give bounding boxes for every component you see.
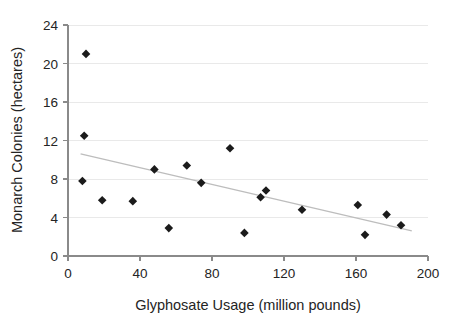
data-point — [240, 229, 249, 238]
x-tick-label-40: 40 — [132, 266, 147, 281]
trend-line — [81, 154, 412, 231]
data-point — [80, 131, 89, 140]
y-axis-ticks-group — [63, 25, 68, 256]
data-points-group — [78, 50, 405, 240]
x-axis-ticks-group — [68, 256, 428, 261]
data-point — [354, 201, 363, 210]
y-tick-label-0: 0 — [50, 249, 58, 264]
y-tick-label-4: 4 — [50, 211, 58, 226]
x-tick-label-0: 0 — [64, 266, 72, 281]
data-point — [165, 224, 174, 233]
data-point — [256, 193, 265, 202]
data-point — [82, 50, 91, 59]
y-tick-label-12: 12 — [43, 134, 58, 149]
y-tick-label-20: 20 — [43, 57, 58, 72]
y-axis-tick-labels-group: 04812162024 — [43, 18, 59, 264]
y-tick-label-8: 8 — [50, 172, 58, 187]
data-point — [129, 197, 138, 206]
data-point — [183, 161, 192, 170]
x-tick-label-160: 160 — [345, 266, 368, 281]
gridlines-group — [68, 25, 428, 218]
x-axis-title: Glyphosate Usage (million pounds) — [135, 297, 361, 313]
y-tick-label-16: 16 — [43, 95, 58, 110]
data-point — [78, 177, 87, 186]
y-tick-label-24: 24 — [43, 18, 59, 33]
x-tick-label-120: 120 — [273, 266, 296, 281]
chart-canvas: 04812162024 04080120160200 Glyphosate Us… — [0, 0, 461, 326]
x-tick-label-80: 80 — [204, 266, 219, 281]
data-point — [226, 144, 235, 153]
x-tick-label-200: 200 — [417, 266, 440, 281]
data-point — [262, 186, 271, 195]
data-point — [361, 231, 370, 240]
y-axis-title: Monarch Colonies (hectares) — [9, 47, 25, 233]
data-point — [197, 179, 206, 188]
scatter-chart-figure: 04812162024 04080120160200 Glyphosate Us… — [0, 0, 461, 326]
data-point — [98, 196, 107, 205]
x-axis-tick-labels-group: 04080120160200 — [64, 266, 439, 281]
